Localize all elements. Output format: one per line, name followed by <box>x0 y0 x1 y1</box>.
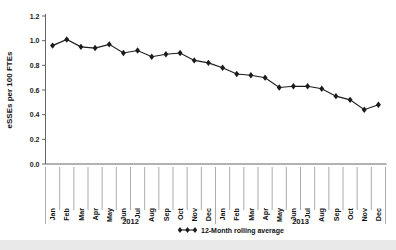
x-tick-label: Apr <box>261 208 270 221</box>
x-tick-label: Feb <box>62 207 71 220</box>
x-tick-label: Dec <box>204 208 213 221</box>
series-data-point <box>248 72 253 78</box>
x-tick-label: Oct <box>346 207 355 220</box>
series-data-point <box>376 102 381 108</box>
y-tick-label: 0.2 <box>30 136 40 143</box>
series-data-point <box>234 71 239 77</box>
x-tick-label: Mar <box>247 208 256 221</box>
series-data-point <box>263 74 268 80</box>
series-data-point <box>277 84 282 90</box>
series-data-point <box>291 83 296 89</box>
series-data-point <box>78 44 83 50</box>
legend-label: 12-Month rolling average <box>201 227 284 235</box>
y-tick-label: 1.0 <box>30 37 40 44</box>
y-tick-label: 0.0 <box>30 161 40 168</box>
x-tick-label: Aug <box>147 208 156 222</box>
chart-container: 0.00.20.40.60.81.01.2eSSEs per 100 FTEsJ… <box>0 0 396 250</box>
series-data-point <box>163 51 168 57</box>
x-tick-label: Nov <box>360 208 369 222</box>
series-data-point <box>50 42 55 48</box>
series-data-point <box>64 36 69 42</box>
footer-band <box>0 240 396 250</box>
y-tick-label: 0.6 <box>30 87 40 94</box>
x-tick-label: Sep <box>162 207 171 221</box>
series-data-point <box>206 60 211 66</box>
x-tick-label: Dec <box>374 208 383 221</box>
year-group-label: 2013 <box>292 217 309 226</box>
series-data-point <box>178 50 183 56</box>
series-data-point <box>93 45 98 51</box>
series-data-point <box>192 57 197 63</box>
series-data-point <box>135 47 140 53</box>
y-tick-label: 1.2 <box>30 13 40 20</box>
x-tick-label: May <box>275 208 284 222</box>
year-group-label: 2012 <box>122 217 139 226</box>
series-data-point <box>305 83 310 89</box>
x-tick-label: May <box>105 208 114 222</box>
series-data-point <box>348 97 353 103</box>
x-tick-label: Jan <box>48 208 57 220</box>
series-data-point <box>333 93 338 99</box>
x-tick-label: Nov <box>190 208 199 222</box>
series-line-12-month-rolling-average <box>53 39 379 109</box>
x-tick-label: Jan <box>218 208 227 220</box>
series-data-point <box>107 41 112 47</box>
x-tick-label: Sep <box>332 207 341 221</box>
line-chart: 0.00.20.40.60.81.01.2eSSEs per 100 FTEsJ… <box>0 0 396 250</box>
x-tick-label: Apr <box>91 208 100 221</box>
x-tick-label: Feb <box>232 207 241 220</box>
series-data-point <box>121 50 126 56</box>
series-data-point <box>362 107 367 113</box>
x-tick-label: Mar <box>77 208 86 221</box>
y-tick-label: 0.8 <box>30 62 40 69</box>
y-tick-label: 0.4 <box>30 111 40 118</box>
series-data-point <box>149 54 154 60</box>
x-tick-label: Aug <box>317 208 326 222</box>
x-tick-label: Oct <box>176 207 185 220</box>
series-data-point <box>319 86 324 92</box>
y-axis-title: eSSEs per 100 FTEs <box>5 51 14 128</box>
series-data-point <box>220 65 225 71</box>
